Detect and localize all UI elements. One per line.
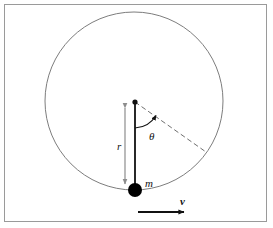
pivot-center-dot [132, 99, 137, 104]
radius-label: r [117, 141, 121, 152]
theta-angle-arc [135, 116, 156, 129]
velocity-label: v [180, 196, 185, 207]
theta-angle-label: θ [149, 131, 154, 142]
angled-radius-dashed-line [135, 102, 206, 152]
mass-ball [128, 183, 142, 197]
mass-label: m [145, 178, 153, 189]
physics-diagram-canvas [0, 0, 273, 228]
figure-root: r m v θ [0, 0, 273, 228]
